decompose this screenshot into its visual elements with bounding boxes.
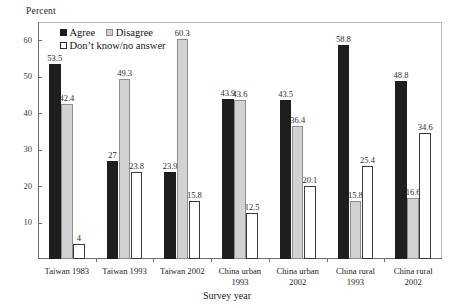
bar-agree [338,45,350,259]
x-group-separator [327,258,328,262]
bar-dont-know [73,244,85,259]
bar-value-label: 20.1 [302,175,317,185]
bar-dont-know [362,166,374,259]
bar-agree [164,172,176,259]
bar-value-label: 16.6 [406,187,421,197]
y-axis-title: Percent [26,6,56,16]
bar-value-label: 15.8 [187,190,202,200]
x-group-separator [153,258,154,262]
bar-disagree [177,39,189,259]
x-axis-title: Survey year [0,290,454,301]
bar-value-label: 43.5 [278,89,293,99]
bar-dont-know [246,213,258,259]
bar-agree [222,99,234,259]
bar-value-label: 27 [108,150,117,160]
bar-value-label: 23.8 [129,161,144,171]
bar-value-label: 25.4 [360,155,375,165]
y-tick-label: 10 [10,217,32,227]
x-group-separator [384,258,385,262]
bar-disagree [234,100,246,259]
bar-dont-know [304,186,316,259]
bar-disagree [61,104,73,259]
bar-value-label: 42.4 [59,93,74,103]
bar-agree [107,161,119,259]
x-group-separator [211,258,212,262]
bar-disagree [350,201,362,259]
bar-value-label: 58.8 [336,34,351,44]
bars-layer: 53.542.442749.323.823.960.315.843.943.61… [38,22,442,259]
y-tick-label: 60 [10,35,32,45]
bar-dont-know [131,172,143,259]
bar-value-label: 12.5 [245,202,260,212]
bar-agree [395,81,407,259]
bar-value-label: 15.8 [348,190,363,200]
chart-root: Percent Agree Disagree Don’t know/no ans… [0,0,454,308]
y-tick-label: 30 [10,144,32,154]
x-tick-label: China rural 2002 [377,266,449,287]
bar-dont-know [419,133,431,259]
x-group-separator [96,258,97,262]
bar-disagree [407,198,419,259]
bar-value-label: 49.3 [117,68,132,78]
bar-value-label: 43.6 [233,89,248,99]
y-tick-label: 40 [10,108,32,118]
bar-value-label: 4 [77,233,81,243]
bar-value-label: 34.6 [418,122,433,132]
bar-value-label: 23.9 [163,161,178,171]
bar-value-label: 60.3 [175,28,190,38]
bar-value-label: 36.4 [290,115,305,125]
bar-value-label: 48.8 [394,70,409,80]
bar-dont-know [189,201,201,259]
bar-value-label: 53.5 [47,53,62,63]
bar-disagree [292,126,304,259]
x-group-separator [269,258,270,262]
y-tick-label: 50 [10,71,32,81]
y-tick-label: 20 [10,181,32,191]
